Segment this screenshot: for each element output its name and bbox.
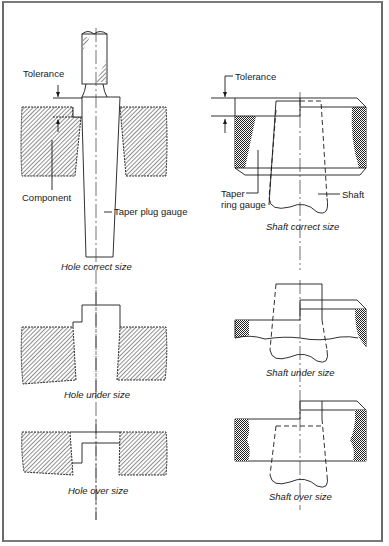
taper-ring-gauge bbox=[235, 98, 366, 175]
caption-shaft-correct: Shaft correct size bbox=[266, 221, 339, 232]
caption-hole-under: Hole under size bbox=[64, 389, 130, 400]
caption-shaft-over: Shaft over size bbox=[269, 491, 332, 502]
caption-shaft-under: Shaft under size bbox=[266, 367, 335, 378]
panel-shaft-under: Shaft under size bbox=[235, 280, 366, 395]
component-right-block bbox=[120, 107, 167, 176]
panel-hole-over: Hole over size bbox=[22, 420, 167, 520]
label-tolerance-hole: Tolerance bbox=[23, 68, 64, 79]
panel-shaft-correct: Tolerance Taper ring gauge Shaft Shaft c… bbox=[211, 71, 366, 270]
label-tolerance-shaft: Tolerance bbox=[235, 71, 276, 82]
caption-hole-over: Hole over size bbox=[68, 485, 128, 496]
caption-hole-correct: Hole correct size bbox=[61, 261, 132, 272]
panel-shaft-over: Shaft over size bbox=[235, 395, 366, 510]
label-taper-plug-gauge: Taper plug gauge bbox=[114, 206, 187, 217]
label-taper: Taper bbox=[221, 188, 245, 199]
label-ring-gauge: ring gauge bbox=[221, 199, 266, 210]
taper-gauge-diagram: Tolerance Component Taper plug gauge Hol… bbox=[0, 0, 389, 546]
label-shaft: Shaft bbox=[342, 189, 365, 200]
shaft-break bbox=[269, 198, 328, 213]
label-component: Component bbox=[22, 192, 71, 203]
panel-hole-under: Hole under size bbox=[21, 290, 167, 400]
